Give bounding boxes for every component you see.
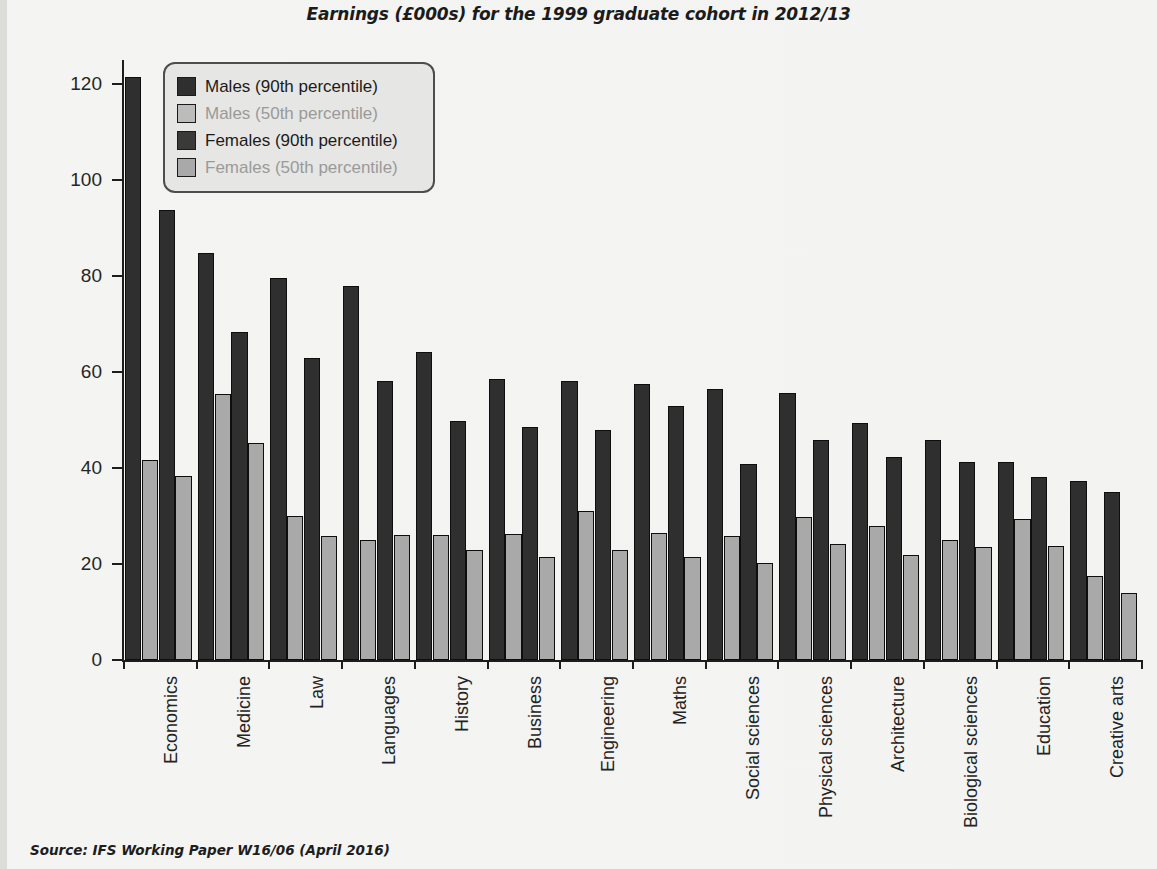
bar-m90 [998,462,1014,660]
x-label-creative-arts: Creative arts [1107,676,1128,778]
y-tick-label-20: 20 [42,554,102,573]
legend-swatch-males-50 [177,104,196,123]
bar-m50 [287,516,303,660]
bar-f50 [612,550,628,660]
bar-f50 [684,557,700,660]
bar-f90 [886,457,902,660]
bar-m50 [360,540,376,660]
x-tick-1 [196,660,198,669]
bar-f90 [959,462,975,660]
x-label-business: Business [525,676,546,749]
bar-m90 [343,286,359,660]
x-tick-9 [777,660,779,669]
x-label-languages: Languages [379,676,400,765]
bar-m50 [1087,576,1103,660]
x-tick-end [1141,660,1143,669]
legend-item-females-50: Females (50th percentile) [177,154,421,181]
bar-f50 [466,550,482,660]
bar-m90 [416,352,432,660]
legend-swatch-females-50 [177,158,196,177]
bar-m90 [125,77,141,660]
legend-label-females-50: Females (50th percentile) [205,159,398,176]
bar-f50 [539,557,555,660]
x-label-education: Education [1034,676,1055,756]
y-tick-80 [112,275,122,277]
bar-m90 [707,389,723,660]
bar-f50 [830,544,846,660]
bar-m90 [561,381,577,660]
bar-m50 [651,533,667,660]
bar-f90 [1104,492,1120,660]
legend-swatch-males-90 [177,77,196,96]
bar-f90 [595,430,611,660]
bar-f90 [740,464,756,660]
bar-f50 [903,555,919,660]
x-tick-6 [559,660,561,669]
x-label-architecture: Architecture [888,676,909,772]
legend-item-males-50: Males (50th percentile) [177,100,421,127]
bar-f90 [159,210,175,660]
x-tick-12 [996,660,998,669]
x-tick-2 [268,660,270,669]
x-tick-8 [705,660,707,669]
bar-f50 [757,563,773,660]
bar-m50 [1014,519,1030,660]
bar-m90 [852,423,868,660]
bar-f50 [248,443,264,660]
bar-m50 [869,526,885,660]
bar-f90 [1031,477,1047,660]
bar-f90 [668,406,684,660]
bar-f50 [975,547,991,660]
x-label-medicine: Medicine [234,676,255,748]
bar-m90 [634,384,650,660]
x-label-physical-sciences: Physical sciences [816,676,837,818]
x-tick-11 [923,660,925,669]
x-tick-0 [123,660,125,669]
bar-f90 [522,427,538,660]
x-label-history: History [452,676,473,732]
bar-m50 [724,536,740,660]
y-tick-60 [112,371,122,373]
bar-f50 [394,535,410,660]
legend-label-males-50: Males (50th percentile) [205,105,378,122]
y-tick-label-80: 80 [42,266,102,285]
y-tick-0 [112,659,122,661]
x-label-maths: Maths [670,676,691,725]
bar-m90 [270,278,286,660]
y-tick-20 [112,563,122,565]
x-label-engineering: Engineering [598,676,619,772]
x-label-economics: Economics [161,676,182,764]
x-tick-5 [487,660,489,669]
x-label-social-sciences: Social sciences [743,676,764,800]
bar-f90 [231,332,247,660]
bar-f90 [377,381,393,660]
x-tick-13 [1068,660,1070,669]
y-tick-label-0: 0 [42,650,102,669]
y-tick-label-60: 60 [42,362,102,381]
bar-m50 [942,540,958,660]
legend-swatch-females-90 [177,131,196,150]
bar-f50 [175,476,191,660]
bar-f90 [450,421,466,660]
bar-f50 [1048,546,1064,660]
bar-m90 [489,379,505,660]
bar-m50 [433,535,449,660]
bar-m50 [142,460,158,660]
bar-f50 [321,536,337,660]
bar-f50 [1121,593,1137,660]
bar-m50 [578,511,594,660]
legend-label-males-90: Males (90th percentile) [205,78,378,95]
x-tick-3 [341,660,343,669]
legend-label-females-90: Females (90th percentile) [205,132,398,149]
x-label-biological-sciences: Biological sciences [961,676,982,828]
legend-item-females-90: Females (90th percentile) [177,127,421,154]
x-tick-4 [414,660,416,669]
bar-m90 [198,253,214,660]
source-note: Source: IFS Working Paper W16/06 (April … [30,842,390,858]
x-tick-10 [850,660,852,669]
x-tick-7 [632,660,634,669]
y-tick-label-100: 100 [42,170,102,189]
bar-f90 [304,358,320,660]
y-tick-40 [112,467,122,469]
bar-f90 [813,440,829,660]
